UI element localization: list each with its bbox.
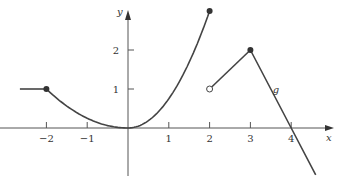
x-tick-label: −1	[80, 133, 95, 144]
function-graph: xy−2−1123412g	[0, 0, 346, 184]
x-axis-arrow-icon	[325, 125, 334, 131]
y-tick-label: 1	[113, 84, 119, 95]
y-axis-arrow-icon	[125, 10, 131, 20]
line-up	[210, 50, 251, 89]
x-axis-label: x	[326, 132, 332, 143]
function-label: g	[273, 84, 279, 95]
x-tick-label: 4	[288, 133, 294, 144]
open-point-icon	[207, 86, 213, 92]
parabola-right	[128, 11, 210, 128]
line-down	[250, 50, 315, 175]
x-tick-label: −2	[39, 133, 54, 144]
graph-figure: xy−2−1123412g	[0, 0, 346, 184]
y-tick-label: 2	[113, 45, 119, 56]
x-tick-label: 3	[247, 133, 253, 144]
x-tick-label: 2	[206, 133, 212, 144]
y-axis-label: y	[116, 6, 123, 17]
filled-point-icon	[247, 47, 253, 53]
x-tick-label: 1	[166, 133, 172, 144]
filled-point-icon	[207, 8, 213, 14]
filled-point-icon	[43, 86, 49, 92]
